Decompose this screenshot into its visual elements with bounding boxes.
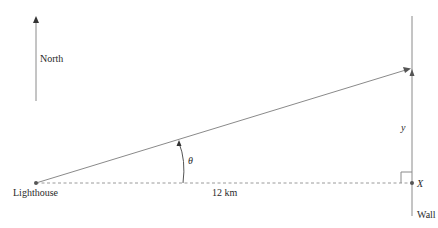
y-label: y [400, 122, 406, 133]
lighthouse-diagram: North θ Lighthouse 12 km y X Wall [0, 0, 438, 228]
beam-arrowhead-icon [403, 67, 411, 73]
lighthouse-label: Lighthouse [13, 187, 59, 198]
wall-arrowhead-icon [410, 69, 415, 76]
lighthouse-point [34, 181, 38, 185]
north-arrow [33, 16, 39, 101]
right-angle-mark [401, 172, 412, 183]
angle-arc [179, 143, 184, 183]
north-label: North [40, 53, 63, 64]
theta-label: θ [188, 155, 193, 166]
light-beam [36, 69, 409, 183]
wall-label: Wall [417, 209, 436, 220]
x-point-label: X [416, 178, 424, 189]
angle-arrowhead-icon [177, 140, 182, 146]
point-x [410, 181, 414, 185]
distance-label: 12 km [212, 187, 238, 198]
